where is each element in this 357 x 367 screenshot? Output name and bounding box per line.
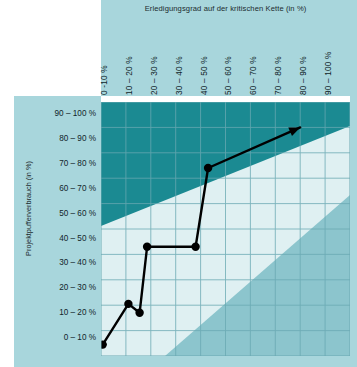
y-tick-label-0: 90 – 100 % — [34, 102, 101, 127]
y-tick-label-1: 80 – 90 % — [34, 127, 101, 152]
x-tick-text: 40 – 50 % — [200, 56, 209, 95]
plot-area — [101, 102, 350, 356]
x-tick-text: 50 – 60 % — [224, 56, 233, 95]
x-tick-label-1: 10 – 20 % — [126, 26, 151, 96]
x-tick-label-8: 80 – 90 % — [300, 26, 325, 96]
data-point-2 — [135, 309, 143, 317]
y-tick-label-2: 70 – 80 % — [34, 152, 101, 177]
x-tick-text: 0 -10 % — [100, 65, 109, 95]
y-tick-label-4: 50 – 60 % — [34, 202, 101, 227]
x-axis-header-band: Erledigungsgrad auf der kritischen Kette… — [101, 0, 357, 96]
y-tick-label-5: 40 – 50 % — [34, 227, 101, 252]
x-tick-text: 80 – 90 % — [299, 56, 308, 95]
x-tick-label-3: 30 – 40 % — [176, 26, 201, 96]
y-axis-tick-labels: 90 – 100 %80 – 90 %70 – 80 %60 – 70 %50 … — [34, 102, 101, 351]
data-point-5 — [204, 164, 212, 172]
y-tick-label-7: 20 – 30 % — [34, 276, 101, 301]
y-tick-label-3: 60 – 70 % — [34, 177, 101, 202]
x-axis-title: Erledigungsgrad auf der kritischen Kette… — [101, 4, 350, 13]
x-tick-text: 90 – 100 % — [324, 52, 333, 95]
x-tick-label-2: 20 – 30 % — [151, 26, 176, 96]
x-tick-label-6: 60 – 70 % — [250, 26, 275, 96]
y-axis-header-band: Projektpufferverbrauch (in %) 90 – 100 %… — [14, 96, 101, 367]
y-tick-label-9: 0 – 10 % — [34, 326, 101, 351]
x-tick-label-7: 70 – 80 % — [275, 26, 300, 96]
x-axis-tick-labels: 0 -10 %10 – 20 %20 – 30 %30 – 40 %40 – 5… — [101, 26, 350, 96]
chart-root: Erledigungsgrad auf der kritischen Kette… — [0, 0, 357, 367]
x-tick-text: 10 – 20 % — [125, 56, 134, 95]
fever-chart-svg — [101, 102, 350, 356]
x-tick-label-4: 40 – 50 % — [201, 26, 226, 96]
right-margin-strip — [350, 96, 357, 367]
x-tick-text: 70 – 80 % — [274, 56, 283, 95]
x-tick-label-0: 0 -10 % — [101, 26, 126, 96]
x-tick-label-9: 90 – 100 % — [325, 26, 350, 96]
x-tick-text: 60 – 70 % — [249, 56, 258, 95]
data-point-3 — [143, 243, 151, 251]
x-tick-label-5: 50 – 60 % — [226, 26, 251, 96]
data-point-1 — [124, 300, 132, 308]
bottom-margin-strip — [14, 356, 357, 367]
y-axis-title: Projektpufferverbrauch (in %) — [24, 149, 33, 269]
y-tick-label-8: 10 – 20 % — [34, 301, 101, 326]
x-tick-text: 30 – 40 % — [175, 56, 184, 95]
x-tick-text: 20 – 30 % — [150, 56, 159, 95]
y-tick-label-6: 30 – 40 % — [34, 251, 101, 276]
data-point-4 — [191, 243, 199, 251]
